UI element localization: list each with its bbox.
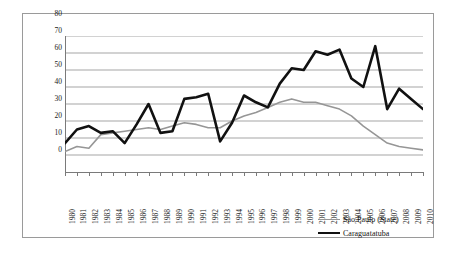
- x-axis-tick-label: 1992: [212, 209, 220, 224]
- x-axis-tick-mark: [196, 173, 197, 176]
- x-axis-tick-label: 1987: [152, 209, 160, 224]
- x-axis-tick-label: 1999: [295, 209, 303, 224]
- series-line-caraguatatuba: [65, 46, 423, 143]
- x-axis-tick-mark: [184, 173, 185, 176]
- x-axis-tick-mark: [399, 173, 400, 176]
- x-axis-tick-mark: [351, 173, 352, 176]
- legend-line-swatch-icon: [318, 232, 340, 234]
- legend-item-sao-paulo-state: São Paulo (State): [318, 212, 448, 226]
- x-axis-tick-labels: 1980198119821983198419851986198719881989…: [65, 177, 423, 211]
- x-axis-tick-mark: [304, 173, 305, 176]
- x-axis-tick-mark: [137, 173, 138, 176]
- x-axis-tick-label: 1983: [104, 209, 112, 224]
- x-axis-tick-label: 1986: [140, 209, 148, 224]
- x-axis-tick-label: 1989: [176, 209, 184, 224]
- x-axis-tick-label: 1982: [92, 209, 100, 224]
- legend-line-swatch-icon: [318, 219, 340, 220]
- x-axis-tick-mark: [101, 173, 102, 176]
- x-axis-tick-mark: [113, 173, 114, 176]
- x-axis-tick-mark: [375, 173, 376, 176]
- x-axis-tick-label: 1988: [164, 209, 172, 224]
- plot-area: [65, 36, 423, 172]
- x-axis-tick-mark: [339, 173, 340, 176]
- x-axis-tick-label: 1990: [188, 209, 196, 224]
- x-axis-tick-mark: [65, 173, 66, 176]
- legend-label-caraguatatuba: Caraguatatuba: [343, 229, 389, 238]
- x-axis-tick-mark: [244, 173, 245, 176]
- x-axis-tick-mark: [316, 173, 317, 176]
- x-axis-tick-label: 1995: [248, 209, 256, 224]
- x-axis-tick-mark: [172, 173, 173, 176]
- x-axis-tick-mark: [232, 173, 233, 176]
- x-axis-tick-mark: [149, 173, 150, 176]
- x-axis-tick-mark: [125, 173, 126, 176]
- x-axis-tick-label: 1981: [80, 209, 88, 224]
- x-axis-tick-label: 1984: [116, 209, 124, 224]
- x-axis-tick-mark: [208, 173, 209, 176]
- y-axis-tick-label: 30: [46, 95, 62, 103]
- y-axis-tick-label: 60: [46, 44, 62, 52]
- x-axis-tick-label: 1998: [283, 209, 291, 224]
- x-axis-tick-mark: [268, 173, 269, 176]
- data-series-group: [65, 46, 423, 151]
- x-axis-tick-label: 1997: [271, 209, 279, 224]
- legend-label-sao-paulo-state: São Paulo (State): [343, 215, 399, 224]
- y-axis-tick-label: 80: [46, 10, 62, 18]
- x-axis-tick-label: 1993: [224, 209, 232, 224]
- chart-plot-svg: [65, 36, 423, 172]
- y-axis-tick-label: 70: [46, 27, 62, 35]
- x-axis-tick-mark: [220, 173, 221, 176]
- chart-legend: São Paulo (State) Caraguatatuba: [318, 212, 448, 240]
- legend-item-caraguatatuba: Caraguatatuba: [318, 226, 448, 240]
- x-axis-tick-label: 1994: [236, 209, 244, 224]
- x-axis-tick-label: 1985: [128, 209, 136, 224]
- x-axis-tick-mark: [387, 173, 388, 176]
- chart-frame: 01020304050607080 1980198119821983198419…: [22, 13, 434, 238]
- y-axis-tick-labels: 01020304050607080: [45, 14, 62, 150]
- y-axis-tick-label: 50: [46, 61, 62, 69]
- x-axis-tick-mark: [411, 173, 412, 176]
- x-axis-tick-mark: [328, 173, 329, 176]
- x-axis-tick-mark: [292, 173, 293, 176]
- x-axis-tick-mark: [423, 173, 424, 176]
- x-axis-tick-mark: [363, 173, 364, 176]
- x-axis-tick-mark: [256, 173, 257, 176]
- y-axis-tick-label: 20: [46, 112, 62, 120]
- x-axis-tick-label: 2000: [307, 209, 315, 224]
- y-axis-tick-label: 0: [46, 146, 62, 154]
- chart-container: 01020304050607080 1980198119821983198419…: [0, 0, 455, 255]
- x-axis-tick-mark: [77, 173, 78, 176]
- x-axis-tick-label: 1980: [69, 209, 77, 224]
- x-axis-tick-mark: [89, 173, 90, 176]
- x-axis-tick-label: 1996: [259, 209, 267, 224]
- y-axis-tick-label: 40: [46, 78, 62, 86]
- x-axis-tick-mark: [280, 173, 281, 176]
- y-axis-tick-label: 10: [46, 129, 62, 137]
- series-line-sao-paulo-state: [65, 99, 423, 152]
- x-axis-tick-label: 1991: [200, 209, 208, 224]
- x-axis-tick-mark: [160, 173, 161, 176]
